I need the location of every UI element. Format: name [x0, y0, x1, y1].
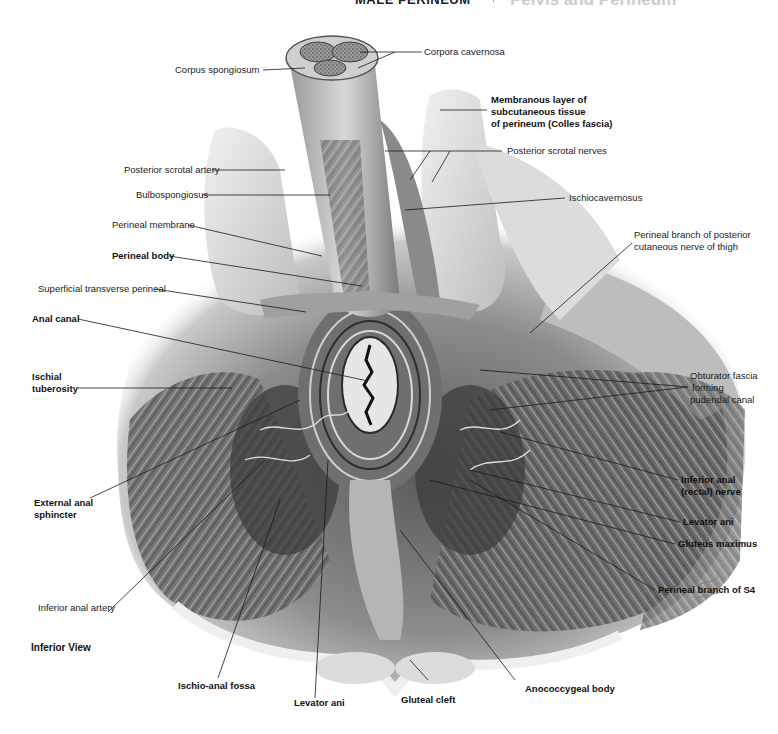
label-ischiocavernosus: Ischiocavernosus: [569, 192, 642, 204]
label-obturator-fascia: Obturator fascia forming pudendal canal: [690, 370, 758, 406]
label-colles-fascia: Membranous layer of subcutaneous tissue …: [491, 94, 612, 130]
label-line: (rectal) nerve: [681, 486, 741, 498]
view-caption: Inferior View: [31, 642, 91, 653]
label-line: of perineum (Colles fascia): [491, 118, 612, 130]
label-line: Inferior anal: [681, 474, 741, 486]
label-levator-ani-bottom: Levator ani: [294, 697, 345, 709]
label-inferior-anal-artery: Inferior anal artery: [38, 602, 115, 614]
label-line: forming: [690, 382, 758, 394]
label-posterior-scrotal-nerves: Posterior scrotal nerves: [507, 145, 607, 157]
label-perineal-body: Perineal body: [112, 250, 174, 262]
label-gluteal-cleft: Gluteal cleft: [401, 694, 455, 706]
label-perineal-branch-posterior-cutaneous-nerve: Perineal branch of posterior cutaneous n…: [634, 229, 751, 253]
label-superficial-transverse-perineal: Superficial transverse perineal: [38, 283, 166, 295]
label-corpus-spongiosum: Corpus spongiosum: [175, 64, 260, 76]
label-line: Membranous layer of: [491, 94, 612, 106]
label-posterior-scrotal-artery: Posterior scrotal artery: [124, 164, 220, 176]
label-ischial-tuberosity: Ischial tuberosity: [32, 371, 78, 395]
label-anococcygeal-body: Anococcygeal body: [525, 683, 615, 695]
label-inferior-anal-nerve: Inferior anal (rectal) nerve: [681, 474, 741, 498]
label-line: tuberosity: [32, 383, 78, 395]
label-corpora-cavernosa: Corpora cavernosa: [424, 46, 505, 58]
label-line: External anal: [34, 497, 93, 509]
label-line: cutaneous nerve of thigh: [634, 241, 751, 253]
label-ischio-anal-fossa: Ischio-anal fossa: [178, 680, 255, 692]
label-line: Obturator fascia: [690, 370, 758, 382]
label-line: subcutaneous tissue: [491, 106, 612, 118]
label-line: pudendal canal: [690, 394, 758, 406]
perineum-illustration: [0, 0, 778, 734]
label-line: Perineal branch of posterior: [634, 229, 751, 241]
label-levator-ani-right: Levator ani: [683, 516, 734, 528]
label-perineal-branch-s4: Perineal branch of S4: [658, 584, 755, 596]
label-anal-canal: Anal canal: [32, 313, 80, 325]
label-gluteus-maximus: Gluteus maximus: [678, 538, 757, 550]
label-external-anal-sphincter: External anal sphincter: [34, 497, 93, 521]
label-perineal-membrane: Perineal membrane: [112, 219, 195, 231]
label-line: Ischial: [32, 371, 78, 383]
label-line: sphincter: [34, 509, 93, 521]
label-bulbospongiosus: Bulbospongiosus: [136, 189, 208, 201]
